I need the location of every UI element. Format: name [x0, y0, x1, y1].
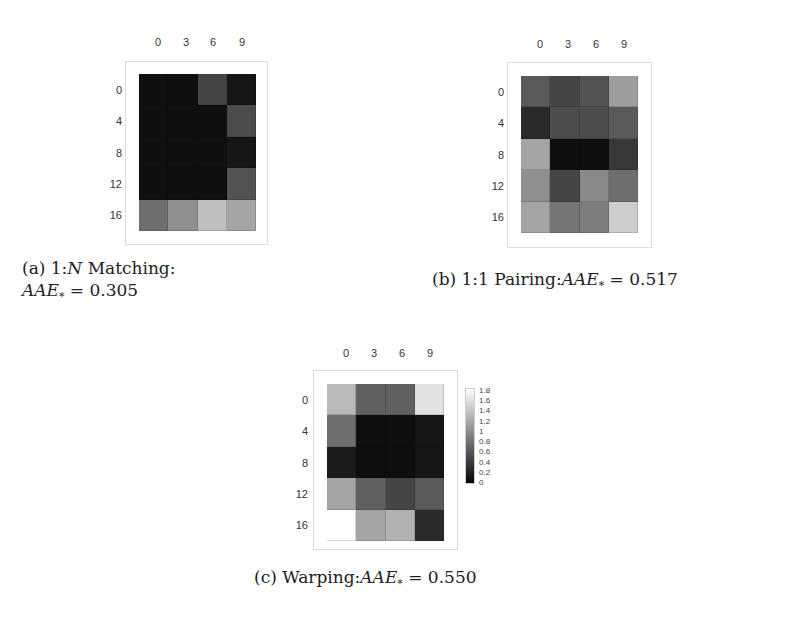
- heatmap-cell: [580, 170, 609, 201]
- colorbar-tick-label: 1.2: [479, 416, 490, 425]
- heatmap-cell: [327, 478, 356, 509]
- y-tick-label: 4: [484, 117, 504, 129]
- heatmap-cell: [356, 415, 385, 446]
- heatmap-cell: [521, 202, 550, 233]
- heatmap-grid: [327, 384, 444, 541]
- heatmap-cell: [227, 105, 256, 136]
- heatmap-cell: [198, 137, 227, 168]
- colorbar: [465, 388, 475, 484]
- x-tick-label: 9: [621, 38, 627, 50]
- heatmap-cell: [139, 74, 168, 105]
- x-tick-label: 9: [239, 36, 245, 48]
- colorbar-tick-label: 1.6: [479, 396, 490, 405]
- caption-a: (a) 1:N Matching:AAE* = 0.305: [22, 257, 175, 308]
- heatmap-cell: [609, 139, 638, 170]
- heatmap-cell: [386, 510, 415, 541]
- heatmap-cell: [227, 200, 256, 231]
- y-tick-label: 16: [484, 211, 504, 223]
- heatmap-cell: [550, 170, 579, 201]
- y-tick-label: 8: [484, 149, 504, 161]
- heatmap-cell: [139, 200, 168, 231]
- y-tick-label: 8: [288, 457, 308, 469]
- y-tick-label: 12: [102, 178, 122, 190]
- heatmap-cell: [139, 137, 168, 168]
- heatmap-cell: [609, 170, 638, 201]
- x-tick-label: 6: [593, 38, 599, 50]
- heatmap-cell: [580, 202, 609, 233]
- y-tick-label: 16: [102, 209, 122, 221]
- colorbar-tick-label: 1: [479, 426, 483, 435]
- heatmap-cell: [609, 107, 638, 138]
- heatmap-cell: [227, 168, 256, 199]
- y-tick-label: 4: [102, 115, 122, 127]
- heatmap-cell: [356, 478, 385, 509]
- heatmap-cell: [521, 107, 550, 138]
- y-tick-label: 0: [484, 86, 504, 98]
- x-tick-label: 3: [565, 38, 571, 50]
- y-tick-label: 0: [288, 394, 308, 406]
- heatmap-cell: [198, 105, 227, 136]
- x-tick-label: 0: [155, 36, 161, 48]
- heatmap-cell: [415, 415, 444, 446]
- caption-b: (b) 1:1 Pairing:AAE* = 0.517: [432, 268, 678, 297]
- heatmap-cell: [386, 415, 415, 446]
- heatmap-cell: [386, 384, 415, 415]
- heatmap-cell: [386, 478, 415, 509]
- heatmap-cell: [168, 200, 197, 231]
- heatmap-cell: [609, 202, 638, 233]
- x-tick-label: 0: [343, 347, 349, 359]
- heatmap-cell: [580, 76, 609, 107]
- heatmap-cell: [550, 139, 579, 170]
- heatmap-cell: [415, 510, 444, 541]
- heatmap-cell: [609, 76, 638, 107]
- colorbar-tick-label: 0.2: [479, 467, 490, 476]
- heatmap-cell: [227, 137, 256, 168]
- heatmap-cell: [386, 447, 415, 478]
- heatmap-cell: [168, 137, 197, 168]
- x-tick-label: 6: [210, 36, 216, 48]
- heatmap-cell: [168, 105, 197, 136]
- colorbar-tick-label: 0: [479, 478, 483, 487]
- heatmap-cell: [168, 168, 197, 199]
- heatmap-cell: [521, 76, 550, 107]
- heatmap-cell: [580, 107, 609, 138]
- heatmap-cell: [356, 510, 385, 541]
- heatmap-cell: [580, 139, 609, 170]
- x-tick-label: 0: [537, 38, 543, 50]
- heatmap-cell: [356, 447, 385, 478]
- heatmap-cell: [168, 74, 197, 105]
- heatmap-cell: [521, 139, 550, 170]
- heatmap-cell: [550, 107, 579, 138]
- colorbar-tick-label: 1.4: [479, 406, 490, 415]
- colorbar-tick-label: 1.8: [479, 386, 490, 395]
- heatmap-cell: [227, 74, 256, 105]
- heatmap-cell: [198, 168, 227, 199]
- y-tick-label: 8: [102, 147, 122, 159]
- x-tick-label: 6: [399, 347, 405, 359]
- heatmap-cell: [139, 105, 168, 136]
- heatmap-cell: [327, 447, 356, 478]
- heatmap-cell: [415, 447, 444, 478]
- heatmap-grid: [139, 74, 256, 231]
- x-tick-label: 9: [427, 347, 433, 359]
- y-tick-label: 16: [288, 519, 308, 531]
- heatmap-cell: [327, 384, 356, 415]
- heatmap-cell: [139, 168, 168, 199]
- y-tick-label: 0: [102, 84, 122, 96]
- colorbar-tick-label: 0.8: [479, 437, 490, 446]
- heatmap-cell: [327, 510, 356, 541]
- colorbar-tick-label: 0.4: [479, 457, 490, 466]
- heatmap-cell: [521, 170, 550, 201]
- colorbar-tick-label: 0.6: [479, 447, 490, 456]
- heatmap-cell: [327, 415, 356, 446]
- heatmap-cell: [198, 200, 227, 231]
- heatmap-cell: [550, 202, 579, 233]
- y-tick-label: 4: [288, 425, 308, 437]
- heatmap-cell: [356, 384, 385, 415]
- heatmap-cell: [198, 74, 227, 105]
- heatmap-grid: [521, 76, 638, 233]
- x-tick-label: 3: [183, 36, 189, 48]
- y-tick-label: 12: [484, 180, 504, 192]
- heatmap-cell: [415, 478, 444, 509]
- caption-c: (c) Warping:AAE* = 0.550: [254, 566, 477, 595]
